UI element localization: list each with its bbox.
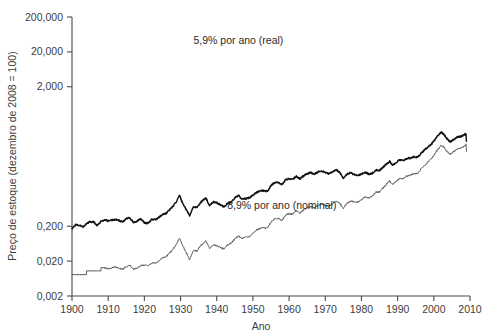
y-tick-label: 200,000 [25,11,63,23]
x-tick-label: 1960 [277,303,301,315]
x-tick-label: 1990 [386,303,410,315]
y-tick-label: 0,200 [37,220,63,232]
chart-background [0,0,491,336]
x-tick-label: 1980 [350,303,374,315]
x-tick-label: 2010 [458,303,482,315]
series-annotation-real: 5,9% por ano (real) [193,34,283,46]
series-annotation-nominal: 8,9% por ano (nominal) [227,199,336,211]
x-tick-label: 1950 [241,303,265,315]
x-tick-label: 2000 [422,303,446,315]
y-tick-label: 0,002 [37,290,63,302]
y-tick-label: 2,000 [37,80,63,92]
x-tick-label: 1900 [60,303,84,315]
x-tick-label: 1930 [169,303,193,315]
x-tick-label: 1970 [314,303,338,315]
x-tick-label: 1940 [205,303,229,315]
y-tick-label: 20,000 [31,45,63,57]
y-tick-label: 0,020 [37,255,63,267]
stock-price-chart: 200,00020,0002,0000,2000,0200,002 190019… [0,0,491,336]
x-tick-label: 1920 [133,303,157,315]
x-axis-title: Ano [252,320,271,332]
y-axis-title: Preço de estoque (dezembro de 2008 = 100… [6,51,18,260]
chart-canvas: 200,00020,0002,0000,2000,0200,002 190019… [0,0,491,336]
x-tick-label: 1910 [97,303,121,315]
